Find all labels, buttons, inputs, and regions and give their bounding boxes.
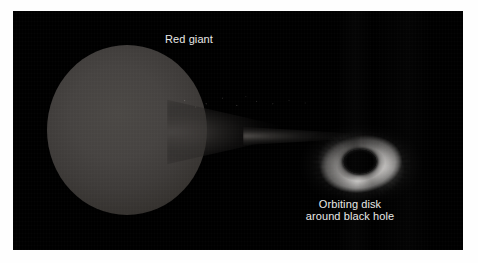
orbiting-disk xyxy=(303,123,419,207)
label-orbiting-disk: Orbiting disk around black hole xyxy=(290,198,410,222)
accretion-stream-speckle xyxy=(163,83,343,123)
figure-root: Red giant Orbiting disk around black hol… xyxy=(0,0,478,263)
black-hole xyxy=(343,149,377,174)
red-giant xyxy=(47,45,267,225)
label-orbiting-disk-line2: around black hole xyxy=(290,210,410,222)
label-orbiting-disk-line1: Orbiting disk xyxy=(290,198,410,210)
label-red-giant: Red giant xyxy=(165,34,213,45)
illustration-plate: Red giant Orbiting disk around black hol… xyxy=(13,11,463,250)
